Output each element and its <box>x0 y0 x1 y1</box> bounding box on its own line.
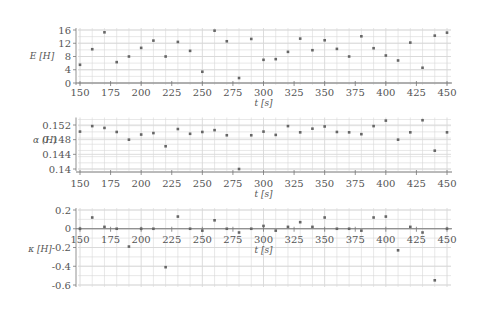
y-tick-label: 0 <box>65 223 71 234</box>
data-point-marker <box>421 231 424 234</box>
data-point-marker <box>409 226 412 229</box>
data-point-marker <box>140 227 143 230</box>
y-tick-label: 0.2 <box>55 205 71 216</box>
data-point-marker <box>421 66 424 69</box>
data-point-marker <box>433 149 436 152</box>
data-point-marker <box>115 227 118 230</box>
data-point-marker <box>250 38 253 41</box>
data-point-marker <box>164 145 167 148</box>
data-point-marker <box>79 130 82 133</box>
data-point-marker <box>226 134 229 137</box>
data-point-marker <box>140 133 143 136</box>
y-axis-label: E [H] <box>29 51 55 61</box>
data-point-marker <box>140 47 143 50</box>
x-axis-label: t [s] <box>254 245 273 255</box>
data-point-marker <box>177 128 180 131</box>
x-tick-label: 200 <box>132 178 151 189</box>
y-tick-label: -0.2 <box>52 242 71 253</box>
data-point-marker <box>262 59 265 62</box>
y-axis-label: α (H) <box>33 135 57 145</box>
three-panel-scatter-plot: 1612840150175200225250275300325350375400… <box>0 0 478 310</box>
x-tick-label: 325 <box>285 234 304 245</box>
data-point-marker <box>311 226 314 229</box>
x-tick-label: 350 <box>315 234 334 245</box>
data-point-marker <box>152 227 155 230</box>
data-point-marker <box>397 249 400 252</box>
data-point-marker <box>274 58 277 61</box>
data-point-marker <box>323 216 326 219</box>
data-point-marker <box>409 41 412 44</box>
data-point-marker <box>91 48 94 51</box>
y-tick-label: -0.6 <box>52 280 71 291</box>
data-point-marker <box>213 219 216 222</box>
x-tick-label: 300 <box>254 178 273 189</box>
data-point-marker <box>177 41 180 44</box>
x-axis-label: t [s] <box>254 98 273 108</box>
x-tick-label: 175 <box>101 178 120 189</box>
data-point-marker <box>103 226 106 229</box>
x-tick-label: 175 <box>101 234 120 245</box>
data-point-marker <box>250 227 253 230</box>
data-point-marker <box>91 216 94 219</box>
y-axis-label: κ [H] <box>27 244 52 254</box>
data-point-marker <box>103 127 106 130</box>
x-tick-label: 250 <box>193 178 212 189</box>
x-tick-label: 450 <box>437 234 456 245</box>
data-point-marker <box>201 131 204 134</box>
x-tick-label: 225 <box>162 87 181 98</box>
data-point-marker <box>336 48 339 51</box>
y-tick-label: 8 <box>65 51 71 62</box>
data-point-marker <box>385 215 388 218</box>
x-tick-label: 150 <box>70 87 89 98</box>
x-tick-label: 200 <box>132 234 151 245</box>
x-tick-label: 175 <box>101 87 120 98</box>
data-point-marker <box>385 54 388 57</box>
data-point-marker <box>385 119 388 122</box>
kappa-panel: 0.20-0.2-0.4-0.6150175200225250275300325… <box>27 205 456 291</box>
x-tick-label: 350 <box>315 178 334 189</box>
data-point-marker <box>115 131 118 134</box>
data-point-marker <box>372 216 375 219</box>
data-point-marker <box>152 39 155 42</box>
data-point-marker <box>336 227 339 230</box>
energy-panel: 1612840150175200225250275300325350375400… <box>29 25 457 109</box>
x-tick-label: 400 <box>376 234 395 245</box>
x-tick-label: 300 <box>254 87 273 98</box>
data-point-marker <box>91 125 94 128</box>
data-point-marker <box>164 55 167 58</box>
data-point-marker <box>299 131 302 134</box>
x-tick-label: 225 <box>162 234 181 245</box>
data-point-marker <box>262 225 265 228</box>
x-tick-label: 325 <box>285 178 304 189</box>
data-point-marker <box>274 229 277 232</box>
y-tick-label: 0.14 <box>49 164 71 175</box>
x-tick-label: 150 <box>70 234 89 245</box>
x-tick-label: 425 <box>407 178 426 189</box>
y-tick-label: 12 <box>58 38 71 49</box>
data-point-marker <box>226 227 229 230</box>
x-tick-label: 375 <box>346 87 365 98</box>
y-tick-label: 0.152 <box>42 120 71 131</box>
x-tick-label: 225 <box>162 178 181 189</box>
data-point-marker <box>238 168 241 171</box>
x-tick-label: 325 <box>285 87 304 98</box>
data-point-marker <box>348 227 351 230</box>
data-point-marker <box>311 127 314 130</box>
x-tick-label: 425 <box>407 234 426 245</box>
chart-figure: 1612840150175200225250275300325350375400… <box>0 0 478 310</box>
grid-lines <box>78 28 451 85</box>
data-point-marker <box>397 138 400 141</box>
data-point-marker <box>152 132 155 135</box>
data-point-marker <box>323 125 326 128</box>
y-tick-label: 0.144 <box>42 149 71 160</box>
x-axis-label: t [s] <box>254 189 273 199</box>
x-tick-label: 350 <box>315 87 334 98</box>
data-point-marker <box>360 133 363 136</box>
data-point-marker <box>311 49 314 52</box>
data-point-marker <box>348 55 351 58</box>
grid-lines <box>78 118 451 172</box>
data-point-marker <box>433 34 436 37</box>
data-point-marker <box>299 37 302 40</box>
data-point-marker <box>79 63 82 66</box>
data-point-marker <box>336 131 339 134</box>
